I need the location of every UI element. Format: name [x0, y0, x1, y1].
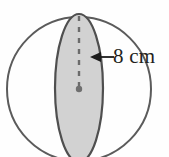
geometry-figure: 8 cm: [0, 0, 169, 157]
center-point-dot: [76, 86, 82, 92]
figure-canvas: [0, 0, 169, 157]
measurement-label: 8 cm: [113, 43, 155, 69]
